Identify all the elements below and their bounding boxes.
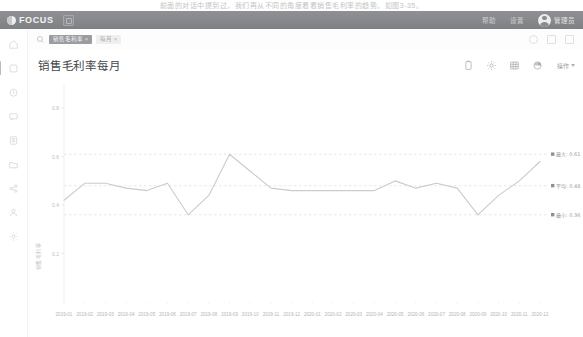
history-icon[interactable]: [529, 35, 538, 44]
sidebar: [0, 29, 28, 337]
x-axis-tick-label: 2020-11: [511, 312, 528, 317]
sidebar-item-user[interactable]: [4, 202, 24, 222]
bookmark-icon[interactable]: [547, 35, 556, 44]
sidebar-item-message[interactable]: [4, 106, 24, 126]
x-axis-tick-label: 2019-03: [97, 312, 114, 317]
x-axis-tick-label: 2019-05: [138, 312, 155, 317]
search-tag-metric-label: 销售毛利率: [53, 35, 83, 44]
close-icon[interactable]: ×: [85, 35, 88, 44]
x-axis-tick-label: 2019-08: [200, 312, 217, 317]
clipboard-icon: [463, 60, 474, 71]
reference-label-max: 最大: 0.61: [556, 151, 580, 158]
chart-canvas: 0.20.40.60.8最大: 0.61平均: 0.48最小: 0.362019…: [28, 80, 583, 337]
more-icon[interactable]: [565, 35, 574, 44]
x-axis-tick-label: 2019-02: [76, 312, 93, 317]
y-axis-tick-label: 0.6: [52, 154, 59, 160]
scanned-page-text: 前面的对话中提到过，我们再从不同的角度看看销售毛利率的趋势。如图3-35。: [0, 0, 583, 9]
search-actions: [529, 35, 574, 44]
reference-marker-min: [551, 213, 554, 216]
y-axis-tick-label: 0.4: [52, 202, 59, 208]
sidebar-item-folder[interactable]: [4, 154, 24, 174]
x-axis-tick-label: 2020-10: [490, 312, 507, 317]
x-axis-tick-label: 2019-01: [56, 312, 73, 317]
table-icon: [509, 60, 520, 71]
brand-name: FOCUS: [19, 15, 54, 25]
x-axis-tick-label: 2020-03: [345, 312, 362, 317]
x-axis-tick-label: 2020-12: [532, 312, 549, 317]
username-label: 管理员: [554, 15, 575, 25]
chart-card: 销售毛利率每月: [28, 50, 583, 337]
y-axis-tick-label: 0.8: [52, 105, 59, 111]
sidebar-item-search[interactable]: [4, 58, 24, 78]
line-chart: 0.20.40.60.8最大: 0.61平均: 0.48最小: 0.362019…: [28, 80, 583, 337]
sidebar-item-settings[interactable]: [4, 226, 24, 246]
x-axis-tick-label: 2019-12: [283, 312, 300, 317]
gear-icon: [486, 60, 497, 71]
search-bar: 销售毛利率 × 每月 ×: [28, 29, 583, 51]
header-link-settings[interactable]: 设置: [510, 15, 524, 25]
x-axis-tick-label: 2020-08: [449, 312, 466, 317]
search-input[interactable]: 销售毛利率 × 每月 ×: [36, 35, 529, 44]
chat-icon: [8, 111, 19, 122]
reference-label-avg: 平均: 0.48: [556, 183, 580, 190]
chevron-down-icon: [571, 64, 575, 67]
page-title: 销售毛利率每月: [38, 57, 121, 73]
app-window: 前面的对话中提到过，我们再从不同的角度看看销售毛利率的趋势。如图3-35。 FO…: [0, 0, 583, 337]
x-axis-tick-label: 2020-09: [469, 312, 486, 317]
y-axis-title: 销售毛利率: [34, 243, 41, 270]
home-icon: [8, 39, 19, 50]
x-axis-tick-label: 2020-04: [366, 312, 383, 317]
header-link-help[interactable]: 帮助: [482, 15, 496, 25]
share-icon: [8, 183, 19, 194]
brand-logo[interactable]: FOCUS: [7, 15, 54, 25]
gear-icon: [8, 231, 19, 242]
search-tag-metric[interactable]: 销售毛利率 ×: [49, 35, 92, 44]
search-tag-period[interactable]: 每月 ×: [96, 35, 121, 44]
chart-type-button[interactable]: [529, 57, 546, 74]
sidebar-item-home[interactable]: [4, 34, 24, 54]
close-icon[interactable]: ×: [114, 35, 117, 44]
x-axis-tick-label: 2020-01: [304, 312, 321, 317]
settings-button[interactable]: [483, 57, 500, 74]
y-axis-tick-label: 0.2: [52, 251, 59, 257]
focus-logo-icon: [7, 16, 16, 25]
x-axis-tick-label: 2019-06: [159, 312, 176, 317]
table-view-button[interactable]: [506, 57, 523, 74]
operations-menu-label: 操作: [557, 61, 569, 70]
sidebar-item-list[interactable]: [4, 130, 24, 150]
x-axis-tick-label: 2020-05: [387, 312, 404, 317]
operations-menu[interactable]: 操作: [557, 61, 575, 70]
x-axis-tick-label: 2020-07: [428, 312, 445, 317]
sidebar-item-share[interactable]: [4, 178, 24, 198]
x-axis-tick-label: 2019-10: [242, 312, 259, 317]
reference-marker-max: [551, 152, 554, 155]
reference-label-min: 最小: 0.36: [556, 212, 580, 219]
avatar: [538, 14, 551, 27]
reference-marker-avg: [551, 184, 554, 187]
chart-toolbar: 销售毛利率每月: [28, 50, 583, 80]
sidebar-item-history[interactable]: [4, 82, 24, 102]
search-icon: [8, 63, 19, 74]
app-grid-icon[interactable]: [63, 15, 74, 26]
search-icon: [36, 35, 45, 44]
user-icon: [8, 207, 19, 218]
folder-icon: [8, 159, 19, 170]
user-menu[interactable]: 管理员: [538, 14, 575, 27]
pie-chart-icon: [532, 60, 543, 71]
clock-icon: [8, 87, 19, 98]
x-axis-tick-label: 2019-07: [180, 312, 197, 317]
app-header: FOCUS 帮助 设置 管理员: [0, 11, 583, 29]
x-axis-tick-label: 2020-06: [407, 312, 424, 317]
x-axis-tick-label: 2019-09: [221, 312, 238, 317]
x-axis-tick-label: 2020-02: [325, 312, 342, 317]
data-series-line: [64, 154, 540, 215]
copy-button[interactable]: [460, 57, 477, 74]
search-tag-period-label: 每月: [100, 35, 112, 44]
x-axis-tick-label: 2019-11: [263, 312, 280, 317]
list-icon: [8, 135, 19, 146]
x-axis-tick-label: 2019-04: [118, 312, 135, 317]
